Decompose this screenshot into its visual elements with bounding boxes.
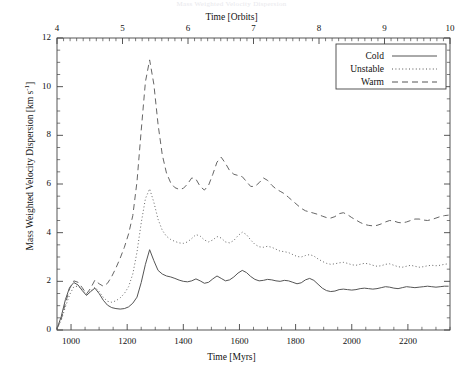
y-tick-label-6: 6 [25, 178, 51, 188]
x-tick-label-top-8: 8 [302, 23, 336, 33]
plot-area: ColdUnstableWarm [0, 0, 463, 372]
legend-box: ColdUnstableWarm [336, 44, 446, 89]
chart-page: Mass Weighted Velocity Dispersion Time [… [0, 0, 463, 372]
legend-label-cold: Cold [366, 51, 385, 61]
y-tick-label-12: 12 [25, 32, 51, 42]
y-tick-label-10: 10 [25, 81, 51, 91]
x-tick-label-bottom-1200: 1200 [110, 336, 144, 346]
series-line-cold [57, 250, 449, 329]
y-tick-label-2: 2 [25, 275, 51, 285]
x-tick-label-bottom-1400: 1400 [166, 336, 200, 346]
x-tick-label-top-10: 10 [433, 23, 463, 33]
legend-label-unstable: Unstable [350, 64, 384, 74]
data-series-group [57, 60, 449, 329]
y-tick-label-8: 8 [25, 129, 51, 139]
y-tick-label-4: 4 [25, 227, 51, 237]
x-tick-label-top-7: 7 [237, 23, 271, 33]
series-line-warm [57, 60, 449, 329]
x-tick-label-bottom-1800: 1800 [279, 336, 313, 346]
x-tick-label-bottom-2200: 2200 [391, 336, 425, 346]
x-tick-label-top-6: 6 [171, 23, 205, 33]
x-tick-label-top-9: 9 [368, 23, 402, 33]
legend-label-warm: Warm [361, 77, 385, 87]
series-line-unstable [57, 189, 449, 329]
x-tick-label-top-5: 5 [106, 23, 140, 33]
y-tick-label-0: 0 [25, 324, 51, 334]
x-tick-label-bottom-1600: 1600 [222, 336, 256, 346]
x-tick-label-bottom-2000: 2000 [335, 336, 369, 346]
x-tick-label-bottom-1000: 1000 [54, 336, 88, 346]
